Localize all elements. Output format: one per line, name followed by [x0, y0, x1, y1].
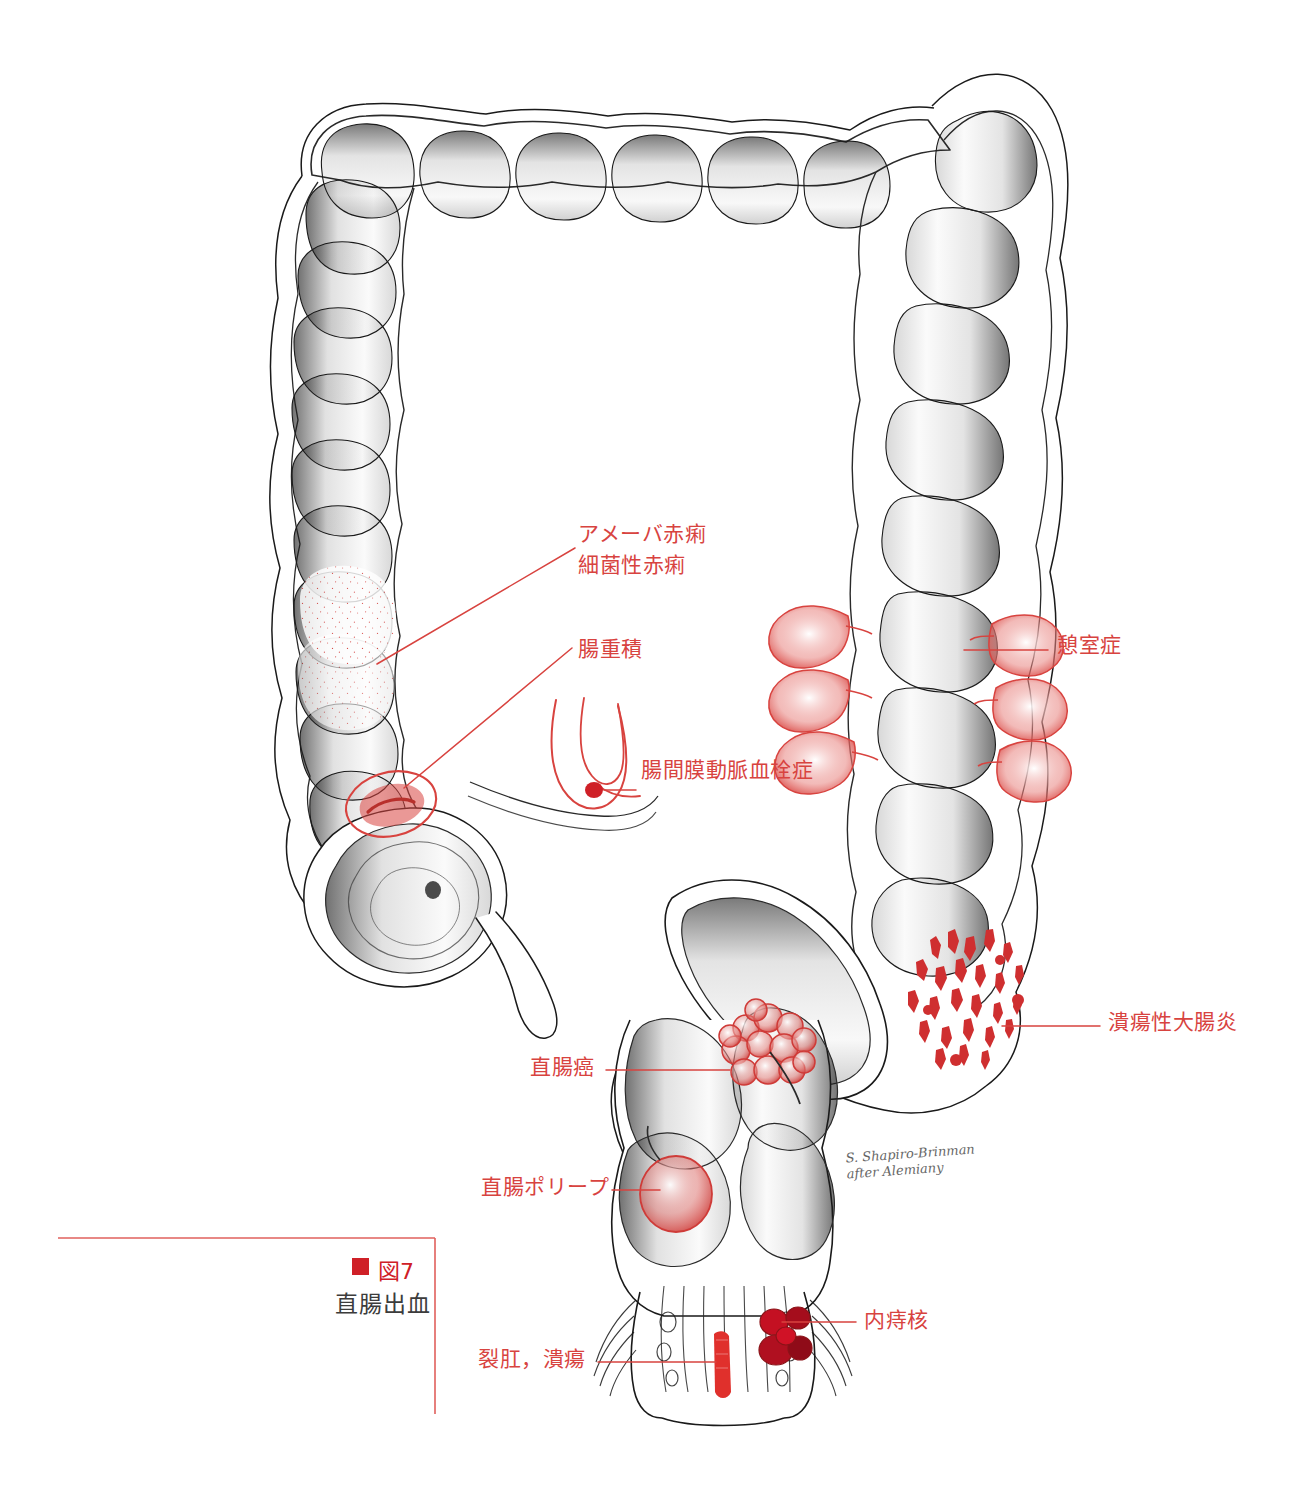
label-anal-fissure-ulcer: 裂肛，潰瘍 [478, 1344, 586, 1374]
caption-title: 直腸出血 [335, 1285, 431, 1319]
label-bacillary-dysentery-line2: 細菌性赤痢 [578, 550, 706, 581]
label-amoebic-dysentery: アメーバ赤痢 細菌性赤痢 [578, 519, 706, 581]
label-intussusception: 腸重積 [578, 634, 643, 664]
caption-number: 図7 [378, 1253, 414, 1285]
perianal-skin-right [810, 1300, 852, 1396]
descending-colon [847, 74, 1068, 1086]
internal-hemorrhoids-lesion [759, 1307, 812, 1365]
label-diverticulosis: 憩室症 [1057, 630, 1122, 660]
mesenteric-thrombus [585, 782, 603, 798]
figure-root: アメーバ赤痢 細菌性赤痢 腸重積 腸間膜動脈血栓症 憩室症 潰瘍性大腸炎 直腸癌… [0, 0, 1303, 1487]
cecum-inner-ring-1 [326, 824, 492, 973]
descending-haustra [872, 111, 1037, 976]
label-rectal-cancer: 直腸癌 [530, 1052, 595, 1082]
label-internal-hemorrhoids: 内痔核 [864, 1305, 929, 1335]
cecum [304, 782, 658, 1038]
colon-illustration [0, 0, 1303, 1487]
label-amoebic-dysentery-line1: アメーバ赤痢 [578, 519, 706, 550]
label-mesenteric-thrombosis: 腸間膜動脈血栓症 [641, 755, 813, 785]
ascending-colon-medial-contour [394, 188, 426, 822]
anal-fissure-lesion [714, 1331, 731, 1398]
terminal-ileum [470, 782, 658, 816]
perianal-skin-left [594, 1300, 636, 1396]
transverse-colon [301, 103, 950, 228]
ascending-haustra [292, 180, 406, 865]
diverticulum [769, 670, 872, 732]
intussusception-inset-diagram [552, 698, 640, 809]
leader-dysentery [377, 548, 575, 664]
appendix [476, 912, 557, 1038]
label-rectal-polyp: 直腸ポリープ [481, 1172, 609, 1202]
caption-marker-square [352, 1258, 369, 1275]
anal-verge [662, 1418, 784, 1426]
label-ulcerative-colitis: 潰瘍性大腸炎 [1108, 1007, 1237, 1037]
ileocecal-valve [425, 881, 441, 899]
leader-intussusception [404, 648, 572, 788]
descending-colon-medial-contour [847, 172, 876, 984]
diverticulum [769, 606, 872, 668]
dysentery-stipple-region [298, 566, 396, 730]
